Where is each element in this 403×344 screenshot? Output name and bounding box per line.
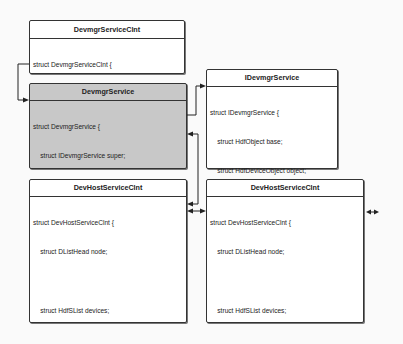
arrow-service-to-interface [187, 86, 201, 115]
arrowhead-icon [187, 132, 193, 137]
connector-layer [0, 0, 403, 344]
arrowhead-icon [187, 209, 193, 214]
arrowhead-icon [23, 98, 29, 103]
arrowhead-icon [187, 202, 193, 207]
arrow-hosts-link [192, 134, 198, 204]
arrowhead-icon [200, 84, 206, 89]
arrowhead-icon [374, 210, 379, 215]
arrow-clnt-to-service [18, 64, 29, 100]
arrowhead-icon [366, 210, 371, 215]
arrowhead-icon [200, 209, 206, 214]
